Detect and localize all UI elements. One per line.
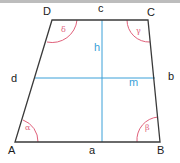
side-label-d: d [11,73,17,84]
vertex-label-b: B [157,145,164,156]
midline-label: m [129,77,138,88]
vertex-label-c: C [147,7,155,18]
trapezoid-figure [0,0,180,163]
trapezoid-outline [15,20,160,142]
angle-label-beta: β [145,124,150,132]
vertex-label-d: D [43,6,51,17]
vertex-label-a: A [8,145,15,156]
side-label-b: b [168,71,174,82]
angle-label-alpha: α [25,124,30,132]
angle-label-delta: δ [61,26,66,34]
angle-label-gamma: γ [136,27,141,35]
side-label-c: c [98,3,104,14]
side-label-a: a [89,145,95,156]
height-label: h [94,42,100,53]
